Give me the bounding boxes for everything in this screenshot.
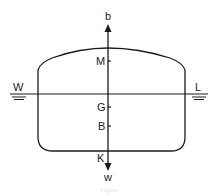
water-symbol-right — [192, 97, 206, 100]
caption: Figure — [100, 187, 118, 193]
arrow-down-icon — [105, 163, 112, 171]
label-L: L — [195, 81, 201, 93]
label-W: W — [13, 81, 24, 93]
label-M: M — [96, 55, 105, 67]
label-w: w — [103, 171, 112, 183]
hull-outline — [38, 48, 185, 151]
stability-diagram: b w W L M G B K Figure — [0, 0, 220, 196]
water-symbol-left — [12, 97, 26, 100]
arrow-up-icon — [105, 24, 112, 32]
label-K: K — [97, 152, 105, 164]
label-B: B — [98, 120, 105, 132]
label-G: G — [97, 101, 106, 113]
label-b: b — [105, 10, 111, 22]
